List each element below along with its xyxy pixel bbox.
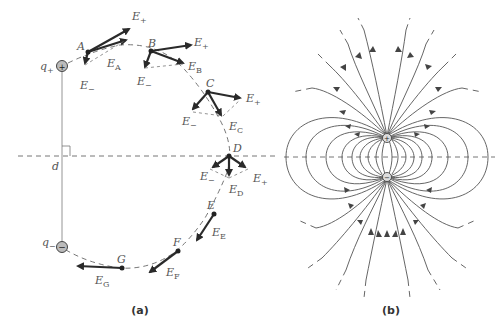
q-minus-label: q− xyxy=(42,236,56,251)
svg-text:EE: EE xyxy=(211,226,226,241)
svg-text:−: − xyxy=(58,242,66,252)
svg-text:E+: E+ xyxy=(131,10,147,25)
svg-text:E−: E− xyxy=(79,79,95,94)
svg-text:G: G xyxy=(117,253,126,266)
svg-text:C: C xyxy=(206,77,215,90)
svg-text:EA: EA xyxy=(106,57,121,72)
svg-text:EF: EF xyxy=(165,266,180,281)
point-f: F EF xyxy=(150,236,181,281)
panel-b: + − (b) xyxy=(284,18,495,317)
caption-a: (a) xyxy=(131,304,148,317)
svg-text:E+: E+ xyxy=(193,36,209,51)
svg-text:A: A xyxy=(76,40,85,53)
svg-text:E−: E− xyxy=(199,170,215,185)
svg-text:E−: E− xyxy=(181,115,197,130)
svg-text:D: D xyxy=(232,142,242,155)
q-plus-label: q+ xyxy=(40,60,54,75)
svg-text:E+: E+ xyxy=(245,92,261,107)
svg-text:ED: ED xyxy=(228,183,243,198)
svg-text:EG: EG xyxy=(94,274,109,289)
dipole-diagram: + − q+ q− d A E+ EA E− B E+ EB E− xyxy=(0,0,503,331)
svg-text:EB: EB xyxy=(187,60,202,75)
svg-text:E−: E− xyxy=(136,75,152,90)
point-d: D E− E+ ED xyxy=(199,142,268,198)
svg-text:EC: EC xyxy=(228,120,243,135)
svg-text:+: + xyxy=(384,135,390,143)
svg-text:−: − xyxy=(384,174,390,182)
svg-text:F: F xyxy=(172,236,181,249)
point-b: B E+ EB E− xyxy=(136,36,209,90)
right-angle-icon xyxy=(62,146,70,156)
svg-text:B: B xyxy=(147,37,156,50)
separation-label: d xyxy=(52,160,59,173)
closed-field-lines xyxy=(286,118,488,199)
lower-field-lines xyxy=(298,179,476,298)
caption-b: (b) xyxy=(382,304,400,317)
point-c: C E+ EC E− xyxy=(181,77,261,135)
svg-text:E+: E+ xyxy=(252,172,268,187)
svg-text:E: E xyxy=(206,199,215,212)
point-e: E EE xyxy=(197,199,226,241)
svg-text:+: + xyxy=(59,63,66,72)
panel-a: + − q+ q− d A E+ EA E− B E+ EB E− xyxy=(18,10,275,317)
point-g: G EG xyxy=(78,253,126,289)
